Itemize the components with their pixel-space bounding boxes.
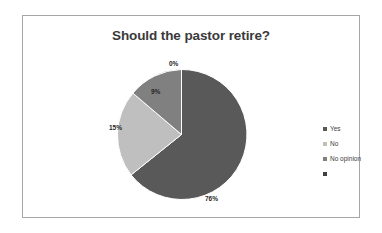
legend-item-blank[interactable] xyxy=(323,166,382,181)
legend-swatch-icon xyxy=(323,142,327,146)
legend-label-no-opinion: No opinion xyxy=(330,155,361,163)
chart-frame: Should the pastor retire? 0% 9% 15% 76% xyxy=(22,15,360,218)
legend-item-yes[interactable]: Yes xyxy=(323,121,382,136)
pie-label-yes: 76% xyxy=(205,195,218,203)
legend-item-no[interactable]: No xyxy=(323,136,382,151)
legend-label-no: No xyxy=(330,140,338,148)
legend-swatch-icon xyxy=(323,157,327,161)
pie-graphic xyxy=(116,69,247,200)
pie-svg xyxy=(116,69,247,200)
pie-plot-area: 0% 9% 15% 76% xyxy=(23,54,293,219)
pie-label-blank: 0% xyxy=(169,60,178,68)
chart-legend: Yes No No opinion xyxy=(323,121,382,181)
chart-screenshot: Should the pastor retire? 0% 9% 15% 76% xyxy=(0,0,382,233)
legend-item-no-opinion[interactable]: No opinion xyxy=(323,151,382,166)
legend-swatch-icon xyxy=(323,127,327,131)
legend-swatch-icon xyxy=(323,172,327,176)
pie-label-no-opinion: 9% xyxy=(151,88,160,96)
chart-title: Should the pastor retire? xyxy=(23,28,359,44)
legend-label-yes: Yes xyxy=(330,125,341,133)
pie-label-no: 15% xyxy=(109,124,122,132)
